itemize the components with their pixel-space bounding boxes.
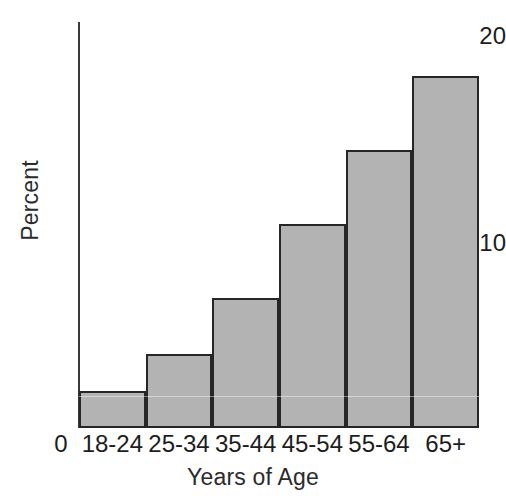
bar: [212, 298, 279, 428]
bar-group: [146, 22, 213, 428]
x-axis-tick-label: 55-64: [346, 430, 413, 458]
bar-group: [412, 22, 479, 428]
x-axis-tick-label: 45-54: [279, 430, 346, 458]
x-axis-title: Years of Age: [0, 464, 506, 491]
bar: [79, 391, 146, 428]
y-axis-title: Percent: [17, 131, 44, 271]
bar-group: [279, 22, 346, 428]
x-axis-tick-label: 18-24: [79, 430, 146, 458]
plot-area: [79, 22, 479, 428]
x-axis-tick-label: 25-34: [146, 430, 213, 458]
x-axis-tick-label: 65+: [412, 430, 479, 458]
bar-chart-figure: Percent 20 10 0 18-2425-3435-4445-5455-6…: [0, 0, 506, 499]
x-axis-tick-label: 35-44: [212, 430, 279, 458]
bar: [412, 76, 479, 428]
bar-group: [79, 22, 146, 428]
bar: [146, 354, 213, 428]
bar-group: [212, 22, 279, 428]
bar: [346, 150, 413, 428]
bar-group: [346, 22, 413, 428]
x-axis-tick-labels: 18-2425-3435-4445-5455-6465+: [79, 430, 479, 460]
bar: [279, 224, 346, 428]
y-axis-tick-label-0: 0: [50, 432, 72, 456]
